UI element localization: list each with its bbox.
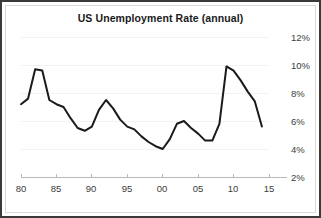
x-tick-95 — [127, 174, 128, 178]
x-tick-10 — [233, 174, 234, 178]
y-axis-label-8: 8% — [291, 88, 305, 99]
x-tick-90 — [91, 174, 92, 178]
x-tick-85 — [56, 174, 57, 178]
x-tick-00 — [162, 174, 163, 178]
y-axis-label-10: 10% — [291, 60, 310, 71]
x-axis-line — [21, 177, 287, 178]
plot-area — [21, 37, 269, 177]
y-axis-label-2: 2% — [291, 172, 305, 183]
x-axis-label-10: 10 — [228, 183, 239, 194]
x-axis-label-05: 05 — [193, 183, 204, 194]
y-axis-label-6: 6% — [291, 116, 305, 127]
x-axis-label-15: 15 — [264, 183, 275, 194]
x-tick-80 — [21, 174, 22, 178]
y-axis-label-12: 12% — [291, 32, 310, 43]
page-title: US Unemployment Rate (annual) — [2, 12, 319, 24]
x-axis-label-00: 00 — [157, 183, 168, 194]
series-line — [21, 37, 269, 177]
x-axis-label-95: 95 — [122, 183, 133, 194]
x-axis-label-85: 85 — [51, 183, 62, 194]
x-tick-15 — [269, 174, 270, 178]
x-tick-05 — [198, 174, 199, 178]
x-axis-label-80: 80 — [16, 183, 27, 194]
y-axis-label-4: 4% — [291, 144, 305, 155]
chart-container: US Unemployment Rate (annual) 12% 10% 8%… — [0, 0, 321, 218]
x-axis-label-90: 90 — [86, 183, 97, 194]
